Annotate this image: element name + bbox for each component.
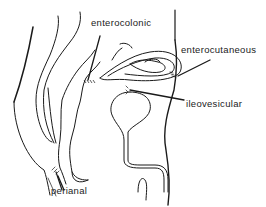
label-enterocutaneous: enterocutaneous bbox=[181, 44, 256, 55]
bladder bbox=[111, 92, 164, 192]
back-outline bbox=[14, 27, 33, 102]
label-enterocolonic: enterocolonic bbox=[91, 17, 151, 28]
abdominal-wall bbox=[165, 40, 177, 205]
leader-ileovesicular bbox=[130, 90, 184, 100]
label-ileovesicular: ileovesicular bbox=[186, 98, 242, 109]
colon-outline bbox=[59, 50, 96, 184]
label-perianal: perianal bbox=[51, 185, 87, 196]
small-bowel bbox=[100, 51, 181, 80]
fistula-diagram: enterocolonic enterocutaneous ileovesicu… bbox=[0, 0, 266, 207]
leader-enterocutaneous bbox=[178, 60, 210, 76]
leader-enterocolonic bbox=[88, 36, 100, 80]
